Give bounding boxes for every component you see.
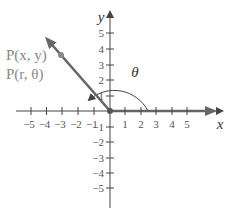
y-tick-label: −3	[92, 152, 104, 164]
y-tick-label: −2	[92, 136, 104, 148]
y-tick-label: 5	[99, 27, 105, 39]
x-axis-label: x	[216, 116, 224, 132]
point-label-polar: P(r, θ)	[6, 66, 43, 83]
x-tick-label: −4	[39, 118, 51, 130]
x-tick-label: 2	[138, 118, 144, 130]
x-axis: −5 −4 −3 −2 −1 1 2 3 4 5 x	[16, 107, 224, 132]
angle-label: θ	[131, 64, 139, 80]
origin-point	[107, 108, 113, 114]
point-label-rectangular: P(x, y)	[6, 47, 47, 64]
polar-coordinate-diagram: −5 −4 −3 −2 −1 1 2 3 4 5 x 5	[0, 0, 233, 218]
y-tick-label: −4	[92, 167, 104, 179]
point-p	[58, 52, 64, 58]
x-tick-label: −2	[70, 118, 82, 130]
y-tick-label: 4	[99, 43, 105, 55]
y-tick-label: 3	[99, 59, 105, 71]
x-tick-label: 5	[184, 118, 190, 130]
y-axis-label: y	[96, 9, 105, 25]
x-tick-label: −3	[54, 118, 66, 130]
y-tick-label: 2	[99, 74, 105, 86]
y-tick-label: −1	[92, 121, 104, 133]
x-tick-label: 3	[153, 118, 159, 130]
x-tick-label: 4	[169, 118, 175, 130]
y-tick-label: −5	[92, 182, 104, 194]
x-tick-label: 1	[122, 118, 128, 130]
x-tick-label: −5	[23, 118, 35, 130]
